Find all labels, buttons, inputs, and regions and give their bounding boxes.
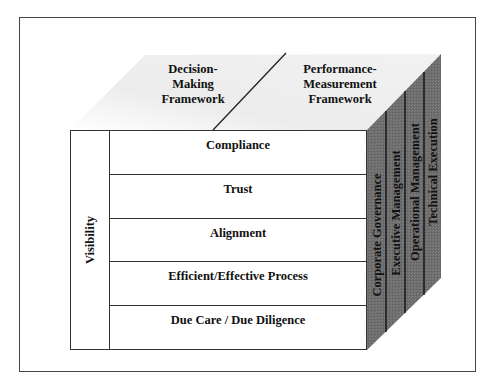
side-label-operational-management: Operational Management — [408, 123, 423, 261]
side-label-technical-execution: Technical Execution — [426, 118, 441, 226]
visibility-label: Visibility — [83, 216, 98, 264]
label-line: Decision- — [138, 62, 248, 77]
performance-measurement-framework-label: Performance- Measurement Framework — [285, 62, 395, 107]
label-line: Framework — [138, 92, 248, 107]
decision-making-framework-label: Decision- Making Framework — [138, 62, 248, 107]
label-line: Measurement — [285, 77, 395, 92]
row-alignment: Alignment — [110, 219, 366, 263]
label-line: Framework — [285, 92, 395, 107]
layer-rows: Compliance Trust Alignment Efficient/Eff… — [110, 131, 366, 349]
visibility-column: Visibility — [71, 131, 110, 349]
side-label-corporate-governance: Corporate Governance — [370, 173, 385, 296]
row-due-care-due-diligence: Due Care / Due Diligence — [110, 306, 366, 349]
side-label-executive-management: Executive Management — [389, 150, 404, 275]
label-line: Making — [138, 77, 248, 92]
label-line: Performance- — [285, 62, 395, 77]
row-efficient-effective-process: Efficient/Effective Process — [110, 262, 366, 306]
row-compliance: Compliance — [110, 131, 366, 175]
row-trust: Trust — [110, 175, 366, 219]
front-face: Visibility Compliance Trust Alignment Ef… — [70, 130, 367, 350]
